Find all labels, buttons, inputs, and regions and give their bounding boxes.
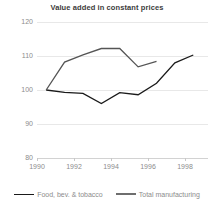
x-tick-label: 1996 [131,163,165,170]
legend-label: Food, bev. & tobacco [37,191,103,198]
y-tick-label: 100 [7,86,33,94]
legend-item-food-bev-tobacco[interactable]: Food, bev. & tobacco [14,191,103,198]
y-tick-label: 110 [7,52,33,60]
y-tick-label: 90 [7,120,33,128]
y-tick-label: 80 [7,154,33,162]
legend-label: Total manufacturing [139,191,200,198]
x-tick-label: 1990 [20,163,54,170]
x-tick-mark [37,158,38,161]
y-axis-labels: 120 110 100 90 80 [2,0,33,208]
x-tick-mark [148,158,149,161]
legend-item-total-manufacturing[interactable]: Total manufacturing [116,191,200,198]
x-tick-mark [74,158,75,161]
series-lines [37,22,208,158]
series-line-total-manufacturing [46,49,156,90]
chart-legend: Food, bev. & tobacco Total manufacturing [0,186,214,202]
legend-line-icon [14,194,34,195]
legend-line-icon [116,193,136,195]
plot-area [37,22,208,158]
x-tick-mark [111,158,112,161]
series-line-food-bev-tobacco [46,55,193,104]
x-tick-label: 1994 [94,163,128,170]
x-tick-mark [185,158,186,161]
x-tick-label: 1998 [168,163,202,170]
x-tick-label: 1992 [57,163,91,170]
x-axis-line [37,158,208,159]
chart-container: Value added in constant prices 120 110 1… [0,0,214,208]
y-tick-label: 120 [7,18,33,26]
